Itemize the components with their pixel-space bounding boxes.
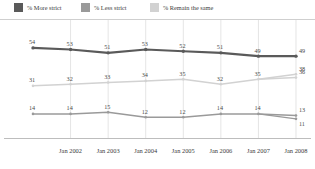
legend-label-more-strict: % More strict — [27, 3, 62, 12]
value-label: 15 — [104, 103, 110, 110]
value-label-endpoint: 38 — [299, 65, 305, 72]
x-tick-label: Jan 2003 — [97, 147, 120, 155]
x-tick-label: Jan 2006 — [209, 147, 232, 155]
value-label: 32 — [67, 75, 73, 82]
value-label: 31 — [29, 76, 35, 83]
value-label: 51 — [217, 43, 223, 50]
legend-item-remain-the-same: % Remain the same — [150, 3, 213, 12]
x-tick-label: Jan 2008 — [285, 147, 308, 155]
legend-swatch-less-strict — [81, 3, 90, 12]
value-label: 14 — [254, 104, 260, 111]
legend-item-less-strict: % Less strict — [81, 3, 127, 12]
line-chart: % More strict % Less strict % Remain the… — [0, 0, 315, 169]
x-tick-label: Jan 2002 — [59, 147, 82, 155]
value-label: 51 — [104, 43, 110, 50]
x-axis: Jan 2002Jan 2003Jan 2004Jan 2005Jan 2006… — [0, 138, 315, 169]
value-label: 53 — [142, 40, 148, 47]
value-label: 12 — [142, 108, 148, 115]
value-label: 35 — [179, 70, 185, 77]
x-tick-label: Jan 2007 — [247, 147, 270, 155]
x-axis-line — [4, 138, 311, 139]
value-label: 49 — [299, 47, 305, 54]
legend-swatch-remain-the-same — [150, 3, 159, 12]
plot-area: 5453515352514949313233343532353638141415… — [0, 20, 315, 138]
value-label: 34 — [142, 71, 148, 78]
chart-legend: % More strict % Less strict % Remain the… — [0, 0, 315, 20]
value-label-endpoint: 11 — [299, 120, 305, 127]
value-label: 49 — [254, 47, 260, 54]
value-label: 14 — [217, 104, 223, 111]
value-label: 52 — [179, 42, 185, 49]
value-label: 12 — [179, 108, 185, 115]
x-tick-label: Jan 2004 — [134, 147, 157, 155]
value-label: 14 — [67, 104, 73, 111]
value-label: 14 — [29, 104, 35, 111]
legend-swatch-more-strict — [14, 3, 23, 12]
value-label: 53 — [67, 40, 73, 47]
value-label: 54 — [29, 38, 35, 45]
x-tick-label: Jan 2005 — [172, 147, 195, 155]
plot-svg — [0, 20, 315, 138]
legend-label-remain-the-same: % Remain the same — [163, 3, 213, 12]
legend-item-more-strict: % More strict — [14, 3, 62, 12]
legend-label-less-strict: % Less strict — [94, 3, 127, 12]
value-label: 32 — [217, 75, 223, 82]
value-label: 33 — [104, 73, 110, 80]
value-label: 35 — [254, 70, 260, 77]
value-label: 13 — [299, 106, 305, 113]
